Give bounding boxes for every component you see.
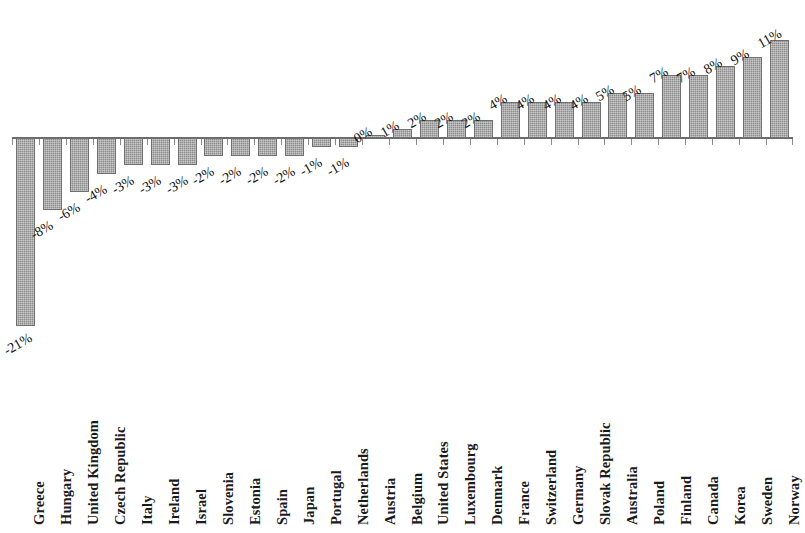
axis-tick [227, 139, 228, 145]
axis-tick [551, 139, 552, 145]
axis-tick [12, 139, 13, 145]
axis-tick [174, 139, 175, 145]
bar-value-label: -21% [1, 330, 35, 359]
axis-tick [497, 139, 498, 145]
category-label: Austria [382, 478, 399, 525]
bar [716, 66, 735, 138]
category-label: Belgium [409, 473, 426, 525]
bar-value-label: -2% [243, 164, 271, 189]
category-label: Japan [301, 487, 318, 525]
bar-value-label: -2% [270, 164, 298, 189]
bar [635, 93, 654, 138]
bar [285, 138, 304, 156]
axis-tick [470, 139, 471, 145]
category-label: Denmark [489, 466, 506, 526]
bar-value-label: -2% [216, 164, 244, 189]
category-label: Poland [651, 481, 668, 525]
axis-tick [524, 139, 525, 145]
bar [743, 57, 762, 138]
axis-tick [335, 139, 336, 145]
category-label: Canada [705, 476, 722, 525]
axis-tick [792, 139, 793, 145]
category-label: Czech Republic [112, 427, 129, 525]
bar-chart: -21%-8%-6%-4%-3%-3%-3%-2%-2%-2%-2%-1%-1%… [0, 0, 805, 533]
plot-area: -21%-8%-6%-4%-3%-3%-3%-2%-2%-2%-2%-1%-1%… [12, 0, 793, 340]
category-label: Germany [570, 466, 587, 526]
category-label: Slovenia [220, 472, 237, 525]
category-label: Ireland [166, 479, 183, 525]
category-label: Italy [139, 496, 156, 526]
axis-tick [631, 139, 632, 145]
axis-tick [308, 139, 309, 145]
bar [689, 75, 708, 138]
category-label: United Kingdom [85, 420, 102, 525]
category-label: Sweden [759, 477, 776, 525]
category-label: Switzerland [543, 450, 560, 525]
bar [70, 138, 89, 192]
axis-tick [604, 139, 605, 145]
category-label: Finland [678, 476, 695, 525]
axis-tick [578, 139, 579, 145]
axis-tick [739, 139, 740, 145]
category-label: Korea [732, 486, 749, 525]
axis-tick [254, 139, 255, 145]
bar-value-label: -3% [109, 172, 137, 197]
category-label: Slovak Republic [597, 422, 614, 525]
bar [43, 138, 62, 210]
axis-tick [389, 139, 390, 145]
category-label: Greece [31, 481, 48, 525]
axis-tick [658, 139, 659, 145]
bar [770, 40, 789, 138]
axis-tick [93, 139, 94, 145]
category-label: Israel [193, 489, 210, 525]
bar-value-label: -3% [163, 172, 191, 197]
category-label: Netherlands [355, 448, 372, 525]
category-label: United States [435, 441, 452, 525]
category-label: Hungary [58, 469, 75, 525]
bar [124, 138, 143, 165]
bar [231, 138, 250, 156]
axis-tick [120, 139, 121, 145]
axis-tick [766, 139, 767, 145]
bar [178, 138, 197, 165]
axis-tick [416, 139, 417, 145]
axis-tick [712, 139, 713, 145]
axis-tick [147, 139, 148, 145]
bar-value-label: -2% [189, 164, 217, 189]
axis-tick [66, 139, 67, 145]
category-label: Portugal [328, 470, 345, 525]
category-label: Norway [786, 475, 803, 525]
axis-tick [201, 139, 202, 145]
bar [312, 138, 331, 147]
bar [662, 75, 681, 138]
bar-value-label: -1% [297, 155, 325, 180]
category-label: France [516, 481, 533, 525]
category-label: Spain [274, 489, 291, 525]
category-label: Estonia [247, 478, 264, 525]
bar [97, 138, 116, 174]
category-label: Luxembourg [462, 443, 479, 525]
bar-value-label: -1% [324, 155, 352, 180]
bar [151, 138, 170, 165]
axis-tick [443, 139, 444, 145]
bar [204, 138, 223, 156]
axis-tick [685, 139, 686, 145]
bar [258, 138, 277, 156]
category-label: Australia [624, 466, 641, 525]
axis-tick [39, 139, 40, 145]
bar-value-label: -3% [136, 172, 164, 197]
axis-tick [281, 139, 282, 145]
